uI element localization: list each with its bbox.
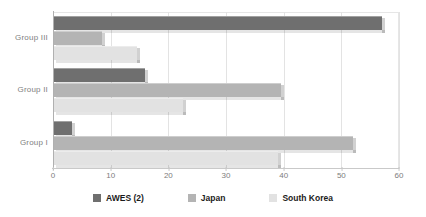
legend-item[interactable]: Japan (188, 193, 226, 203)
bar-highlight (53, 136, 353, 137)
tick-mark (399, 167, 400, 171)
x-tick-label: 20 (164, 171, 173, 180)
bar-body (53, 31, 102, 45)
category-label: Group III (15, 33, 48, 42)
bar-group: Group III (53, 12, 399, 64)
bar-highlight (53, 16, 382, 17)
tick-mark (341, 167, 342, 171)
plot-area: Group IIIGroup IIGroup I (53, 12, 399, 169)
tick-mark (284, 167, 285, 171)
x-tick-label: 40 (279, 171, 288, 180)
x-tick-label: 30 (222, 171, 231, 180)
category-label: Group II (17, 85, 48, 94)
tick-mark (53, 167, 54, 171)
bar-japan (53, 83, 281, 97)
x-axis-ticks: 0102030405060 (53, 171, 399, 185)
bar-south-korea (53, 98, 183, 112)
x-tick-label: 60 (395, 171, 404, 180)
legend-swatch-icon (188, 194, 196, 202)
bar-body (53, 16, 382, 30)
bar-shadow (56, 112, 186, 115)
bar-awes-2 (53, 68, 145, 82)
tick-mark (111, 167, 112, 171)
bar-chart: Group IIIGroup IIGroup I 0102030405060 A… (0, 0, 426, 217)
legend-swatch-icon (93, 194, 101, 202)
y-axis-line (53, 11, 54, 170)
legend-label: South Korea (282, 193, 333, 203)
gridline (399, 12, 400, 169)
bar-shadow (56, 60, 140, 63)
bar-highlight (53, 151, 278, 152)
chart-legend: AWES (2)JapanSouth Korea (0, 193, 426, 203)
bar-body (53, 98, 183, 112)
bar-group: Group II (53, 64, 399, 116)
x-tick-label: 10 (106, 171, 115, 180)
legend-swatch-icon (269, 194, 277, 202)
tick-mark (168, 167, 169, 171)
bar-japan (53, 31, 102, 45)
bar-body (53, 83, 281, 97)
bar-awes-2 (53, 121, 72, 135)
legend-item[interactable]: South Korea (269, 193, 333, 203)
bar-highlight (53, 68, 145, 69)
bar-south-korea (53, 46, 137, 60)
bar-body (53, 68, 145, 82)
legend-label: Japan (201, 193, 226, 203)
x-tick-label: 0 (51, 171, 55, 180)
bar-highlight (53, 121, 72, 122)
bar-south-korea (53, 151, 278, 165)
tick-mark (226, 167, 227, 171)
bar-shadow (56, 30, 385, 33)
legend-label: AWES (2) (106, 193, 144, 203)
bar-body (53, 136, 353, 150)
bar-highlight (53, 98, 183, 99)
bar-highlight (53, 46, 137, 47)
bar-body (53, 46, 137, 60)
bar-japan (53, 136, 353, 150)
bar-awes-2 (53, 16, 382, 30)
legend-item[interactable]: AWES (2) (93, 193, 144, 203)
bar-highlight (53, 83, 281, 84)
bar-body (53, 151, 278, 165)
category-label: Group I (20, 138, 48, 147)
x-tick-label: 50 (337, 171, 346, 180)
bar-body (53, 121, 72, 135)
bar-group: Group I (53, 117, 399, 169)
bar-highlight (53, 31, 102, 32)
